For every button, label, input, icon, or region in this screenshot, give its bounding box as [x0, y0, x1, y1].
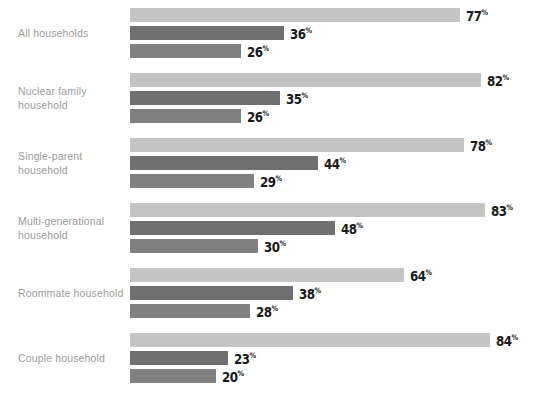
bar-value-number: 38 — [299, 286, 314, 302]
bar-value-number: 20 — [222, 369, 237, 385]
category-label: Multi-generationalhousehold — [0, 214, 130, 242]
bar-value-number: 83 — [491, 203, 506, 219]
bar — [130, 304, 250, 318]
category-label-line: household — [18, 163, 130, 177]
bar-value-label: 26% — [247, 107, 269, 124]
bar-value-number: 30 — [264, 239, 279, 255]
bar-value-number: 44 — [324, 156, 339, 172]
percent-sign: % — [502, 73, 509, 82]
bar-value-number: 78 — [470, 138, 485, 154]
bar — [130, 286, 293, 300]
bar-group: Multi-generationalhousehold83%48%30% — [0, 195, 534, 260]
bar-value-label: 77% — [466, 6, 488, 23]
bar — [130, 73, 481, 87]
bar — [130, 8, 460, 22]
bar-value-number: 29 — [260, 174, 275, 190]
bar-stack: 82%35%26% — [130, 70, 534, 126]
category-label-line: Couple household — [18, 351, 130, 365]
bar-value-number: 84 — [496, 333, 511, 349]
bar — [130, 221, 335, 235]
bar-value-label: 48% — [341, 219, 363, 236]
bar-value-number: 36 — [290, 26, 305, 42]
bar-stack: 77%36%26% — [130, 5, 534, 61]
bar-value-label: 36% — [290, 24, 312, 41]
bar-row: 84% — [130, 333, 534, 347]
category-label-line: Nuclear family — [18, 84, 130, 98]
bar — [130, 26, 284, 40]
bar — [130, 138, 464, 152]
bar-value-label: 23% — [234, 349, 256, 366]
bar-stack: 84%23%20% — [130, 330, 534, 386]
bar — [130, 239, 258, 253]
bar-row: 64% — [130, 268, 534, 282]
category-label: Couple household — [0, 351, 130, 365]
percent-sign: % — [340, 156, 347, 165]
bar-value-label: 64% — [410, 266, 432, 283]
percent-sign: % — [237, 369, 244, 378]
bar-row: 35% — [130, 91, 534, 105]
percent-sign: % — [280, 239, 287, 248]
percent-sign: % — [507, 203, 514, 212]
bar-row: 23% — [130, 351, 534, 365]
bar-group: All households77%36%26% — [0, 0, 534, 65]
bar-row: 44% — [130, 156, 534, 170]
bar-row: 83% — [130, 203, 534, 217]
bar — [130, 109, 241, 123]
bar — [130, 268, 404, 282]
bar-row: 36% — [130, 26, 534, 40]
category-label: Roommate household — [0, 286, 130, 300]
bar — [130, 156, 318, 170]
bar-stack: 64%38%28% — [130, 265, 534, 321]
bar-value-label: 84% — [496, 331, 518, 348]
bar-row: 26% — [130, 44, 534, 58]
bar-row: 77% — [130, 8, 534, 22]
bar — [130, 369, 216, 383]
bar-row: 26% — [130, 109, 534, 123]
percent-sign: % — [314, 286, 321, 295]
bar — [130, 44, 241, 58]
bar-row: 82% — [130, 73, 534, 87]
bar-row: 29% — [130, 174, 534, 188]
category-label-line: Single-parent — [18, 149, 130, 163]
bar — [130, 91, 280, 105]
bar-group: Nuclear familyhousehold82%35%26% — [0, 65, 534, 130]
percent-sign: % — [425, 268, 432, 277]
percent-sign: % — [485, 138, 492, 147]
percent-sign: % — [306, 26, 313, 35]
bar-row: 20% — [130, 369, 534, 383]
category-label: Single-parenthousehold — [0, 149, 130, 177]
bar-stack: 78%44%29% — [130, 135, 534, 191]
bar — [130, 333, 490, 347]
bar-value-label: 30% — [264, 237, 286, 254]
category-label: Nuclear familyhousehold — [0, 84, 130, 112]
category-label-line: Multi-generational — [18, 214, 130, 228]
bar-value-label: 83% — [491, 201, 513, 218]
percent-sign: % — [481, 8, 488, 17]
bar-value-number: 26 — [247, 44, 262, 60]
percent-sign: % — [263, 44, 270, 53]
category-label-line: household — [18, 228, 130, 242]
bar-value-label: 78% — [470, 136, 492, 153]
bar-value-number: 77 — [466, 8, 481, 24]
bar-group: Single-parenthousehold78%44%29% — [0, 130, 534, 195]
bar — [130, 203, 485, 217]
bar-value-label: 26% — [247, 42, 269, 59]
bar-row: 30% — [130, 239, 534, 253]
category-label: All households — [0, 26, 130, 40]
percent-sign: % — [271, 304, 278, 313]
bar-value-label: 82% — [487, 71, 509, 88]
bar-value-number: 35 — [286, 91, 301, 107]
bar-row: 38% — [130, 286, 534, 300]
bar — [130, 174, 254, 188]
bar-stack: 83%48%30% — [130, 200, 534, 256]
bar — [130, 351, 228, 365]
bar-row: 78% — [130, 138, 534, 152]
bar-group: Roommate household64%38%28% — [0, 260, 534, 325]
bar-value-number: 23 — [234, 351, 249, 367]
bar-value-number: 82 — [487, 73, 502, 89]
category-label-line: All households — [18, 26, 130, 40]
bar-value-number: 48 — [341, 221, 356, 237]
bar-value-number: 28 — [256, 304, 271, 320]
bar-value-label: 29% — [260, 172, 282, 189]
percent-sign: % — [263, 109, 270, 118]
